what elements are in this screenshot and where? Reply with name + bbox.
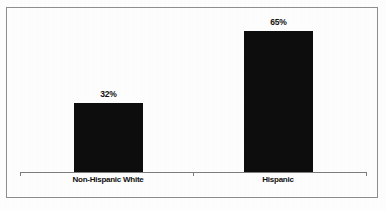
x-axis-tick-left: [20, 172, 21, 176]
scan-bleed-through-text: [0, 200, 386, 210]
plot-area: 32% 65% Non-Hispanic White Hispanic: [0, 0, 386, 210]
x-axis-tick-middle: [193, 172, 194, 176]
x-axis-label-hispanic: Hispanic: [238, 175, 318, 184]
chart-root: 32% 65% Non-Hispanic White Hispanic: [0, 0, 386, 210]
x-axis-label-non-hispanic-white: Non-Hispanic White: [58, 175, 158, 184]
bar-hispanic: [244, 31, 313, 172]
bar-non-hispanic-white: [74, 103, 143, 172]
bar-value-label-hispanic: 65%: [244, 17, 313, 27]
bar-value-label-non-hispanic-white: 32%: [74, 89, 143, 99]
x-axis-tick-right: [366, 172, 367, 176]
